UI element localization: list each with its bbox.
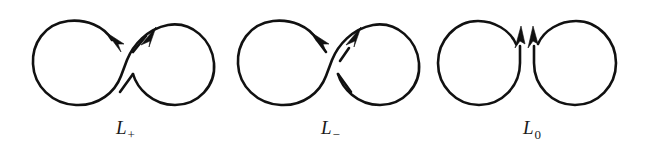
label-l-zero-main: L — [522, 117, 534, 138]
label-l-minus-main: L — [320, 117, 332, 138]
skein-relation-diagram: L+ L− — [0, 0, 652, 150]
label-l-zero-sub: 0 — [535, 127, 542, 142]
label-l-plus-main: L — [115, 117, 127, 138]
label-l-plus-sub: + — [128, 127, 135, 142]
label-l-minus-sub: − — [333, 127, 340, 142]
